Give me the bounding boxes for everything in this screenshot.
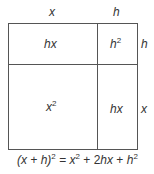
top-label-h: h [113, 6, 120, 18]
region-top-left: hx [44, 38, 57, 50]
region-bottom-right: hx [110, 103, 123, 115]
side-label-x: x [141, 103, 147, 115]
region-bottom-left: x2 [46, 101, 56, 115]
region-top-right: h2 [110, 38, 121, 52]
top-label-x: x [49, 6, 55, 18]
vertical-divider [97, 23, 98, 149]
expansion-formula: (x + h)2 = x2 + 2hx + h2 [17, 153, 138, 167]
horizontal-divider [8, 64, 137, 65]
side-label-h: h [141, 38, 148, 50]
